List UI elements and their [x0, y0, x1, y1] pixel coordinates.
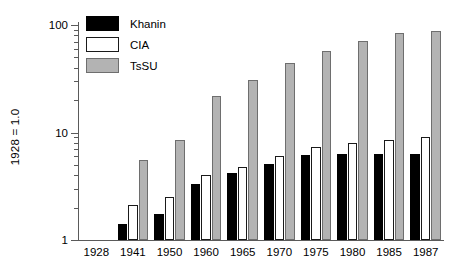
bar-khanin-1970 [264, 164, 274, 240]
bar-khanin-1941 [118, 224, 128, 240]
y-axis-major-tick [71, 133, 78, 134]
legend-item-khanin: Khanin [86, 16, 166, 31]
bar-cia-1985 [384, 140, 394, 240]
bar-tssu-1970 [285, 63, 295, 240]
chart-container: 1928 = 1.0 110100 1928194119501960196519… [0, 0, 460, 274]
legend-swatch-cia [86, 37, 119, 52]
bar-tssu-1965 [248, 80, 258, 240]
bar-khanin-1950 [154, 214, 164, 240]
y-axis-tick-label: 10 [55, 127, 68, 139]
x-axis-labels: 1928194119501960196519701975198019851987 [78, 246, 444, 268]
x-axis-tick-label: 1950 [157, 246, 183, 258]
legend-swatch-khanin [86, 16, 119, 31]
x-axis-tick-label: 1987 [413, 246, 439, 258]
x-axis-tick-label: 1928 [84, 246, 110, 258]
x-axis-tick-label: 1965 [230, 246, 256, 258]
x-axis-tick-label: 1960 [193, 246, 219, 258]
chart-legend: KhaninCIATsSU [86, 16, 166, 73]
bar-cia-1941 [128, 205, 138, 240]
bar-tssu-1975 [322, 51, 332, 240]
bar-cia-1987 [421, 137, 431, 240]
y-axis-major-tick [71, 25, 78, 26]
y-axis-tick-label: 1 [62, 234, 68, 246]
bar-khanin-1960 [191, 184, 201, 240]
bar-cia-1950 [165, 197, 175, 240]
bar-khanin-1975 [301, 155, 311, 240]
bar-cia-1980 [348, 143, 358, 240]
x-axis-tick-label: 1975 [303, 246, 329, 258]
x-axis-tick-label: 1941 [120, 246, 146, 258]
bar-cia-1970 [275, 156, 285, 240]
bar-tssu-1950 [175, 140, 185, 240]
y-axis-tick-label: 100 [49, 19, 68, 31]
legend-item-cia: CIA [86, 37, 166, 52]
legend-label-tssu: TsSU [130, 60, 157, 72]
legend-label-khanin: Khanin [130, 18, 166, 30]
legend-label-cia: CIA [130, 39, 149, 51]
bar-khanin-1980 [337, 154, 347, 240]
bar-khanin-1985 [374, 154, 384, 240]
bar-tssu-1980 [358, 41, 368, 240]
bar-khanin-1965 [227, 173, 237, 240]
y-axis-title: 1928 = 1.0 [0, 0, 30, 274]
x-axis-tick-label: 1985 [376, 246, 402, 258]
legend-swatch-tssu [86, 58, 119, 73]
x-axis-tick-label: 1980 [340, 246, 366, 258]
y-axis-major-tick [71, 240, 78, 241]
x-axis-tick-label: 1970 [267, 246, 293, 258]
bar-khanin-1987 [410, 154, 420, 240]
bar-tssu-1987 [431, 31, 441, 240]
legend-item-tssu: TsSU [86, 58, 166, 73]
bar-tssu-1960 [212, 96, 222, 240]
bar-cia-1960 [201, 175, 211, 240]
bar-tssu-1941 [139, 160, 149, 240]
bar-cia-1965 [238, 167, 248, 240]
bar-tssu-1985 [395, 33, 405, 240]
bar-cia-1975 [311, 147, 321, 240]
